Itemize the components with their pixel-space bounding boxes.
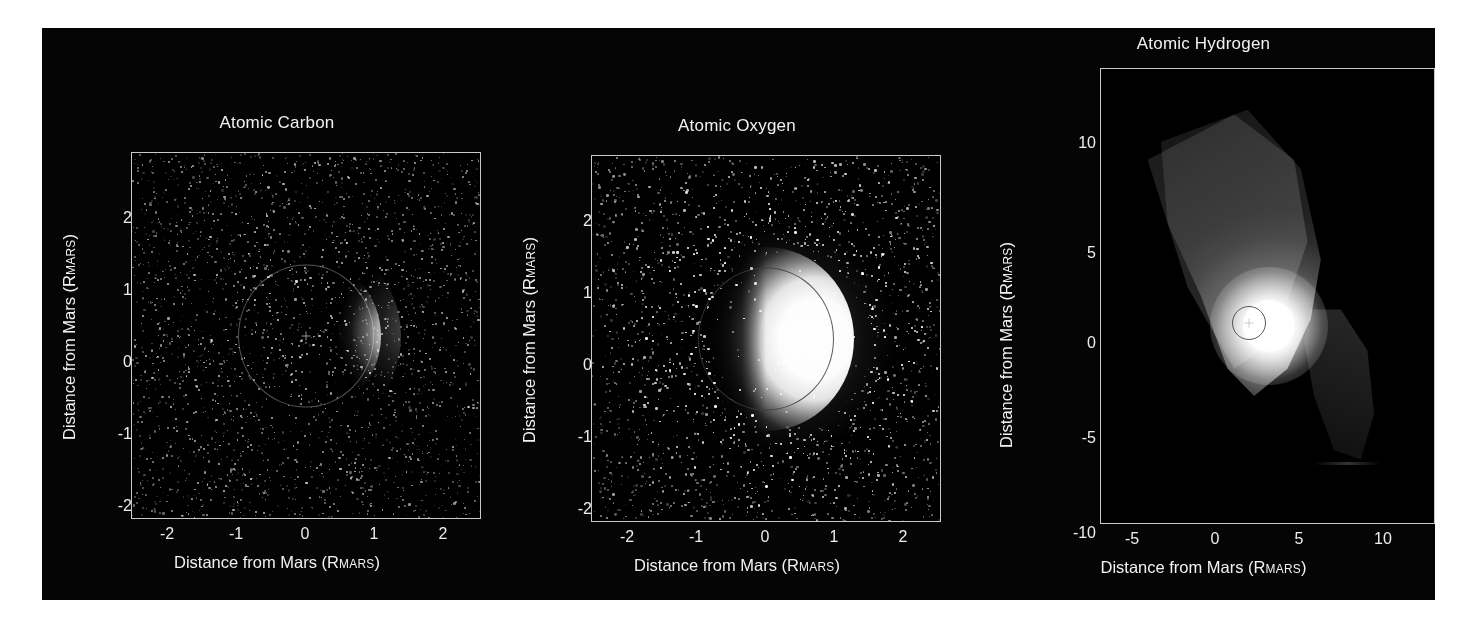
ytick-label: 1 [104, 281, 132, 299]
mars-center-marker [1245, 323, 1254, 324]
plot-area-carbon [131, 152, 481, 519]
xtick-label: 0 [301, 525, 310, 543]
oxygen-noise-field [592, 156, 940, 521]
ytick-label: -1 [558, 428, 592, 446]
x-axis-title-main: Distance from Mars (R [1100, 558, 1265, 576]
y-axis-title-main: Distance from Mars (R [520, 278, 538, 443]
ytick-label: 1 [564, 284, 592, 302]
panel-atomic-carbon: Atomic Carbon Distance from Mars (RMARS)… [42, 28, 512, 600]
y-axis-title-sub: MARS [1001, 247, 1015, 283]
xtick-label: 2 [439, 525, 448, 543]
figure-canvas: Atomic Carbon Distance from Mars (RMARS)… [42, 28, 1435, 600]
ytick-label: -10 [1050, 524, 1096, 542]
y-axis-title-end: ) [997, 242, 1015, 248]
ytick-label: 2 [104, 209, 132, 227]
xtick-label: 0 [1211, 530, 1220, 548]
image-hydrogen [1101, 69, 1434, 523]
ytick-label: 0 [104, 353, 132, 371]
y-axis-title-carbon: Distance from Mars (RMARS) [60, 234, 79, 440]
xtick-label: -2 [620, 528, 634, 546]
y-axis-title-main: Distance from Mars (R [60, 275, 78, 440]
y-axis-title-hydrogen: Distance from Mars (RMARS) [997, 242, 1016, 448]
image-carbon [132, 153, 480, 518]
ytick-label: -2 [558, 500, 592, 518]
y-axis-title-sub: MARS [524, 242, 538, 278]
xtick-label: -1 [229, 525, 243, 543]
x-axis-title-main: Distance from Mars (R [174, 553, 339, 571]
y-axis-title-main: Distance from Mars (R [997, 283, 1015, 448]
ytick-label: -2 [98, 497, 132, 515]
plot-area-hydrogen [1100, 68, 1435, 524]
xtick-label: -1 [689, 528, 703, 546]
x-axis-title-oxygen: Distance from Mars (RMARS) [502, 556, 972, 575]
panel-title-oxygen: Atomic Oxygen [502, 116, 972, 136]
x-axis-title-sub: MARS [1266, 562, 1302, 576]
y-axis-title-end: ) [520, 237, 538, 243]
ytick-label: -1 [98, 425, 132, 443]
hydrogen-bottom-streak [1314, 462, 1381, 465]
xtick-label: -5 [1125, 530, 1139, 548]
xtick-label: 1 [830, 528, 839, 546]
figure-root: Atomic Carbon Distance from Mars (RMARS)… [0, 0, 1481, 634]
ytick-label: 5 [1056, 244, 1096, 262]
xtick-label: 2 [899, 528, 908, 546]
y-axis-title-end: ) [60, 234, 78, 240]
x-axis-title-sub: MARS [339, 557, 375, 571]
ytick-label: -5 [1050, 429, 1096, 447]
carbon-noise-field [132, 153, 480, 518]
x-axis-title-carbon: Distance from Mars (RMARS) [42, 553, 512, 572]
x-axis-title-hydrogen: Distance from Mars (RMARS) [972, 558, 1435, 577]
y-axis-title-oxygen: Distance from Mars (RMARS) [520, 237, 539, 443]
xtick-label: 5 [1295, 530, 1304, 548]
xtick-label: -2 [160, 525, 174, 543]
xtick-label: 1 [370, 525, 379, 543]
x-axis-title-end: ) [375, 553, 381, 571]
x-axis-title-sub: MARS [799, 560, 835, 574]
ytick-label: 2 [564, 212, 592, 230]
xtick-label: 0 [761, 528, 770, 546]
plot-area-oxygen [591, 155, 941, 522]
image-oxygen [592, 156, 940, 521]
panel-title-hydrogen: Atomic Hydrogen [972, 34, 1435, 54]
panel-title-carbon: Atomic Carbon [42, 113, 512, 133]
ytick-label: 10 [1056, 134, 1096, 152]
y-axis-title-sub: MARS [64, 239, 78, 275]
xtick-label: 10 [1374, 530, 1392, 548]
x-axis-title-end: ) [835, 556, 841, 574]
ytick-label: 0 [564, 356, 592, 374]
x-axis-title-main: Distance from Mars (R [634, 556, 799, 574]
panel-atomic-hydrogen: Atomic Hydrogen Distance from Mars (RMAR… [972, 28, 1435, 600]
ytick-label: 0 [1056, 334, 1096, 352]
x-axis-title-end: ) [1301, 558, 1307, 576]
panel-atomic-oxygen: Atomic Oxygen Distance from Mars (RMARS)… [502, 28, 972, 600]
